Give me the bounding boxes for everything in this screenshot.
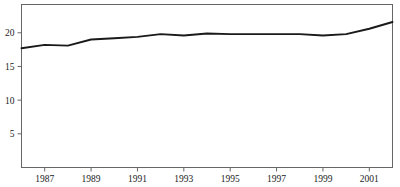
data-line-series-1 — [22, 22, 393, 48]
x-axis: 19871989199119931995199719992001 — [35, 168, 379, 185]
x-tick-label: 1991 — [128, 174, 147, 184]
y-axis: 5101520 — [5, 28, 22, 139]
y-tick-label: 20 — [5, 28, 15, 38]
line-chart: 510152019871989199119931995199719992001 — [0, 0, 400, 187]
x-tick-label: 1987 — [35, 174, 54, 184]
x-tick-label: 1993 — [174, 174, 193, 184]
chart-canvas: 510152019871989199119931995199719992001 — [0, 0, 400, 187]
x-tick-label: 2001 — [360, 174, 379, 184]
y-tick-label: 15 — [5, 62, 15, 72]
y-tick-label: 5 — [10, 129, 15, 139]
x-tick-label: 1999 — [313, 174, 332, 184]
y-tick-label: 10 — [5, 96, 15, 106]
x-tick-label: 1997 — [267, 174, 286, 184]
plot-frame — [22, 5, 393, 168]
x-tick-label: 1995 — [221, 174, 240, 184]
x-tick-label: 1989 — [82, 174, 101, 184]
